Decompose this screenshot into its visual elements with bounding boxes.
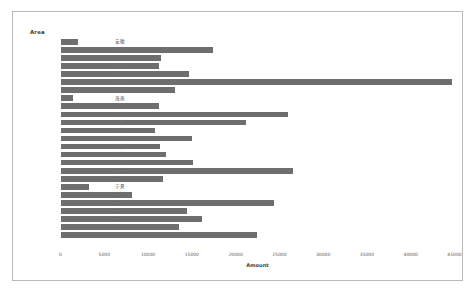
bar-row: 青海: [13, 191, 462, 199]
x-tick-label: 10000: [141, 252, 155, 257]
x-tick-label: 35000: [360, 252, 374, 257]
x-tick-label: 25000: [272, 252, 286, 257]
bar-row: 福建: [13, 54, 462, 62]
x-tick-label: 0: [59, 252, 62, 257]
bar-track: [61, 127, 455, 135]
bar-track: [61, 143, 455, 151]
bar[interactable]: [61, 144, 161, 150]
chart-frame: Area 安徽北京福建甘肃广东广西贵州海南河北河南黑龙江湖北湖南吉林江苏江西辽宁…: [12, 11, 463, 281]
bar-track: [61, 110, 455, 118]
bar-track: [61, 118, 455, 126]
bar[interactable]: [61, 95, 74, 101]
bar[interactable]: [61, 176, 163, 182]
plot-area: 安徽北京福建甘肃广东广西贵州海南河北河南黑龙江湖北湖南吉林江苏江西辽宁内蒙古宁夏…: [13, 38, 462, 248]
bar-track: [61, 199, 455, 207]
bar[interactable]: [61, 152, 166, 158]
bar-row: 甘肃: [13, 62, 462, 70]
bar-track: [61, 62, 455, 70]
bar-track: [61, 38, 455, 46]
bar-track: [61, 191, 455, 199]
bar[interactable]: [61, 55, 162, 61]
bar[interactable]: [61, 79, 452, 85]
bar-track: [61, 94, 455, 102]
bar-track: [61, 183, 455, 191]
x-tick-label: 30000: [316, 252, 330, 257]
bar-row: 山东: [13, 199, 462, 207]
bar[interactable]: [61, 136, 192, 142]
bar-row: 上海: [13, 223, 462, 231]
bar[interactable]: [61, 128, 156, 134]
bar-row: 陝西: [13, 215, 462, 223]
bar[interactable]: [61, 47, 214, 53]
bar[interactable]: [61, 216, 203, 222]
x-axis: Amount 050001000015000200002500030000350…: [61, 251, 455, 281]
bar-row: 贵州: [13, 86, 462, 94]
bar[interactable]: [61, 71, 190, 77]
bar[interactable]: [61, 63, 159, 69]
bar-row: 辽宁: [13, 167, 462, 175]
bar-track: [61, 223, 455, 231]
bar[interactable]: [61, 103, 159, 109]
bar-row: 广东: [13, 70, 462, 78]
bar[interactable]: [61, 232, 257, 238]
bar[interactable]: [61, 87, 176, 93]
bar-track: [61, 167, 455, 175]
bar-row: 内蒙古: [13, 175, 462, 183]
bar-row: 湖南: [13, 135, 462, 143]
x-tick-label: 20000: [228, 252, 242, 257]
bar-row: 四川: [13, 231, 462, 239]
bar[interactable]: [61, 112, 289, 118]
bar-row: 河南: [13, 110, 462, 118]
bar-track: [61, 231, 455, 239]
bar-track: [61, 86, 455, 94]
bar-row: 宁夏: [13, 183, 462, 191]
bar-row: 山西: [13, 207, 462, 215]
bar[interactable]: [61, 160, 193, 166]
bar-track: [61, 159, 455, 167]
bar-track: [61, 215, 455, 223]
bar[interactable]: [61, 208, 187, 214]
bar-row: 河北: [13, 102, 462, 110]
bar-row: 江苏: [13, 151, 462, 159]
bar-row: 海南: [13, 94, 462, 102]
bar-row: 广西: [13, 78, 462, 86]
bar-track: [61, 70, 455, 78]
bar-track: [61, 207, 455, 215]
bar-track: [61, 78, 455, 86]
bar-row: 吉林: [13, 143, 462, 151]
bar-row: 黑龙江: [13, 118, 462, 126]
x-tick-label: 15000: [185, 252, 199, 257]
bar-row: 北京: [13, 46, 462, 54]
bar-track: [61, 175, 455, 183]
bar-row: 江西: [13, 159, 462, 167]
bar-row: 湖北: [13, 127, 462, 135]
bar-track: [61, 102, 455, 110]
x-axis-title: Amount: [246, 262, 268, 268]
x-tick-label: 40000: [404, 252, 418, 257]
bar[interactable]: [61, 200, 275, 206]
bar[interactable]: [61, 120, 247, 126]
bar[interactable]: [61, 168, 293, 174]
bar-track: [61, 151, 455, 159]
bar[interactable]: [61, 39, 79, 45]
bar[interactable]: [61, 224, 179, 230]
bar-track: [61, 54, 455, 62]
y-axis-title: Area: [30, 29, 45, 35]
bar-track: [61, 46, 455, 54]
bar[interactable]: [61, 192, 133, 198]
bar[interactable]: [61, 184, 90, 190]
bar-row: 安徽: [13, 38, 462, 46]
bar-track: [61, 135, 455, 143]
x-tick-label: 45000: [447, 252, 461, 257]
x-tick-label: 5000: [99, 252, 110, 257]
